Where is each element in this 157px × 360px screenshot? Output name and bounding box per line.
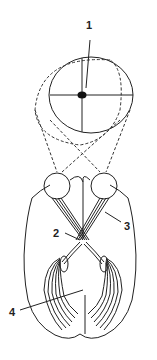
label-4: 4 <box>9 306 16 318</box>
label-1: 1 <box>86 19 92 31</box>
projection-line <box>62 120 120 172</box>
label-3: 3 <box>124 220 130 232</box>
optic-nerves <box>52 198 109 240</box>
visual-pathway-diagram: 1 2 3 4 <box>0 0 157 360</box>
label-2: 2 <box>53 227 59 239</box>
right-eyeball <box>91 173 117 199</box>
label-1-leader <box>86 40 90 88</box>
label-3-leader <box>105 212 121 222</box>
fixation-point <box>78 92 87 99</box>
projection-line <box>35 110 57 172</box>
optic-tracts <box>60 242 108 272</box>
optic-radiation-right <box>88 258 122 330</box>
projection-line <box>50 120 100 172</box>
brain-outline <box>24 185 136 338</box>
left-eye-field-dashed <box>35 60 121 145</box>
interhemispheric-line <box>83 176 90 182</box>
projection-line <box>106 110 130 172</box>
